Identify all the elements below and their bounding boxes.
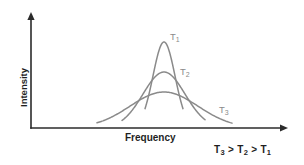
x-axis-title: Frequency (125, 133, 176, 143)
curve-t3 (97, 92, 232, 123)
curve-label-t1: T1 (170, 32, 180, 42)
axes-group (27, 12, 288, 132)
curve-t2 (122, 72, 205, 120)
x-axis-arrowhead (280, 124, 288, 131)
spectral-broadening-figure: T1 T2 T3 Intensity Frequency T3 > T2 > T… (0, 0, 304, 165)
curve-t1 (145, 42, 183, 109)
y-axis-arrowhead (27, 12, 34, 20)
y-axis-title: Intensity (19, 68, 29, 107)
curves-group (97, 42, 232, 123)
curve-label-t2: T2 (180, 67, 190, 77)
curve-label-t3: T3 (219, 105, 229, 115)
temperature-relation-annotation: T3 > T2 > T1 (214, 145, 271, 155)
